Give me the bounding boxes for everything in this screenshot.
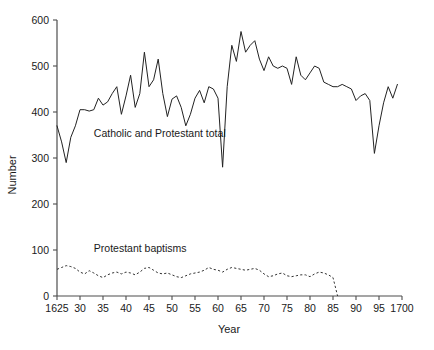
x-tick-label: 65 bbox=[235, 302, 247, 314]
x-tick-label: 55 bbox=[189, 302, 201, 314]
y-tick-label: 100 bbox=[31, 244, 49, 256]
chart-annotation-1: Protestant baptisms bbox=[94, 242, 187, 254]
x-tick-label: 85 bbox=[327, 302, 339, 314]
x-tick-label: 80 bbox=[304, 302, 316, 314]
y-tick-label: 300 bbox=[31, 152, 49, 164]
y-tick-label: 600 bbox=[31, 14, 49, 26]
chart-annotation-0: Catholic and Protestant total bbox=[94, 127, 226, 139]
line-chart-canvas: 0100200300400500600 16253035404550556065… bbox=[0, 0, 434, 350]
x-tick-label: 1625 bbox=[45, 302, 69, 314]
x-axis-ticks: 162530354045505560657075808590951700 bbox=[45, 296, 414, 314]
x-tick-label: 75 bbox=[281, 302, 293, 314]
y-tick-label: 400 bbox=[31, 106, 49, 118]
x-tick-label: 35 bbox=[97, 302, 109, 314]
series-catholic-protestant-total-line bbox=[57, 32, 397, 168]
x-tick-label: 95 bbox=[373, 302, 385, 314]
y-tick-label: 500 bbox=[31, 60, 49, 72]
x-tick-label: 45 bbox=[143, 302, 155, 314]
y-tick-label: 0 bbox=[43, 290, 49, 302]
x-tick-label: 30 bbox=[74, 302, 86, 314]
x-tick-label: 90 bbox=[350, 302, 362, 314]
x-tick-label: 50 bbox=[166, 302, 178, 314]
chart-figure: 0100200300400500600 16253035404550556065… bbox=[0, 0, 434, 350]
y-tick-label: 200 bbox=[31, 198, 49, 210]
y-axis-ticks: 0100200300400500600 bbox=[31, 14, 57, 302]
y-axis-title: Number bbox=[6, 155, 18, 194]
x-tick-label: 40 bbox=[120, 302, 132, 314]
x-tick-label: 70 bbox=[258, 302, 270, 314]
chart-annotations: Catholic and Protestant totalProtestant … bbox=[94, 127, 226, 254]
x-tick-label: 60 bbox=[212, 302, 224, 314]
x-axis-title: Year bbox=[218, 323, 241, 335]
x-tick-label: 1700 bbox=[390, 302, 414, 314]
series-protestant-baptisms-line bbox=[57, 266, 338, 296]
